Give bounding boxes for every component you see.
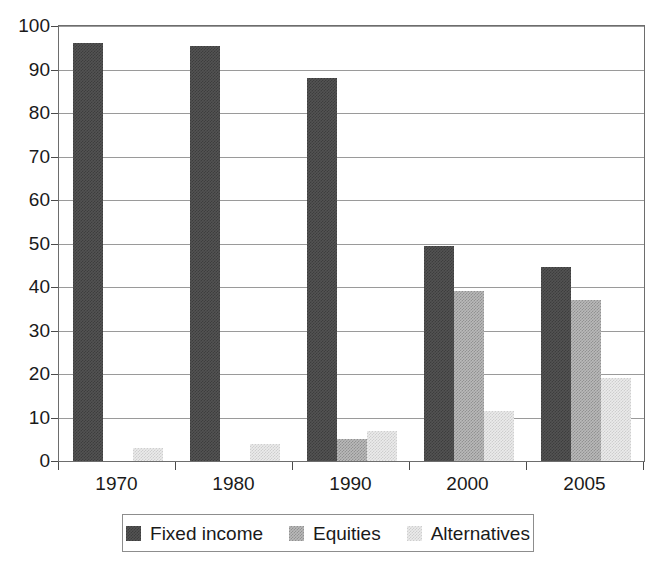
legend-label: Equities [313,524,381,543]
y-axis-tick [51,200,58,201]
legend-item[interactable]: Equities [289,524,381,543]
y-axis-tick-label: 50 [29,234,50,253]
bar-group [410,26,527,461]
x-axis-tick-label: 2005 [526,473,643,495]
y-axis-tick-label: 30 [29,321,50,340]
x-axis-tick-label: 1990 [292,473,409,495]
x-axis-tick [409,462,410,470]
bar [337,439,367,461]
legend-item[interactable]: Alternatives [407,524,530,543]
y-axis: 0102030405060708090100 [0,25,50,462]
bar-group [59,26,176,461]
x-axis-tick-label: 1970 [58,473,175,495]
x-axis-tick [643,462,644,470]
y-axis-tick [51,331,58,332]
y-axis-tick-label: 60 [29,190,50,209]
bar [484,411,514,461]
bar [571,300,601,461]
bar [454,291,484,461]
legend-label: Fixed income [150,524,263,543]
bar [601,378,631,461]
bars-layer [59,26,644,461]
bar [73,43,103,461]
bar [367,431,397,461]
y-axis-tick [51,26,58,27]
bar-chart: 0102030405060708090100 19701980199020002… [0,0,655,571]
y-axis-tick [51,461,58,462]
x-axis-tick [175,462,176,470]
x-axis-tick [292,462,293,470]
x-axis-tick [58,462,59,470]
legend-swatch-icon [126,526,141,541]
y-axis-tick-label: 10 [29,408,50,427]
y-axis-tick-label: 100 [18,16,50,35]
bar-group [293,26,410,461]
legend-label: Alternatives [431,524,530,543]
y-axis-tick-label: 70 [29,147,50,166]
bar [133,448,163,461]
y-axis-tick-label: 90 [29,60,50,79]
legend-item[interactable]: Fixed income [126,524,263,543]
x-axis-tick-label: 2000 [409,473,526,495]
x-axis-tick-label: 1980 [175,473,292,495]
y-axis-tick-label: 80 [29,103,50,122]
y-axis-tick-label: 0 [39,451,50,470]
chart-legend: Fixed incomeEquitiesAlternatives [122,514,534,552]
y-axis-tick-label: 20 [29,364,50,383]
bar [424,246,454,461]
y-axis-tick [51,244,58,245]
bar [307,78,337,461]
y-axis-tick-label: 40 [29,277,50,296]
bar [190,46,220,461]
y-axis-tick [51,418,58,419]
y-axis-tick [51,157,58,158]
bar [541,267,571,461]
bar-group [176,26,293,461]
x-axis-tick [526,462,527,470]
bar-group [527,26,644,461]
legend-swatch-icon [289,526,304,541]
y-axis-tick [51,287,58,288]
legend-swatch-icon [407,526,422,541]
y-axis-tick [51,70,58,71]
y-axis-tick [51,374,58,375]
x-axis: 19701980199020002005 [58,462,645,502]
bar [250,444,280,461]
y-axis-tick [51,113,58,114]
